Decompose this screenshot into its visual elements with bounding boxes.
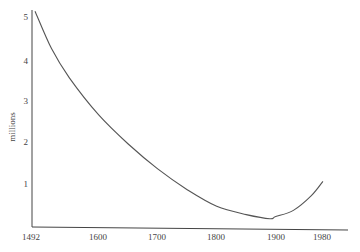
y-tick-3: 3: [18, 96, 28, 106]
y-tick-5: 5: [18, 12, 28, 22]
y-axis-label: millions: [7, 107, 17, 147]
x-tick-1800: 1800: [201, 232, 231, 242]
x-tick-1492: 1492: [16, 232, 46, 242]
y-tick-4: 4: [18, 56, 28, 66]
x-tick-1900: 1900: [261, 232, 291, 242]
x-tick-1980: 1980: [307, 232, 337, 242]
x-tick-1600: 1600: [83, 232, 113, 242]
chart-plot: [0, 0, 360, 252]
population-line: [35, 11, 323, 219]
y-tick-1: 1: [18, 179, 28, 189]
x-axis: [32, 227, 348, 230]
x-tick-1700: 1700: [142, 232, 172, 242]
y-tick-2: 2: [18, 137, 28, 147]
line-chart: millions 1 2 3 4 5 1492 1600 1700 1800 1…: [0, 0, 360, 252]
